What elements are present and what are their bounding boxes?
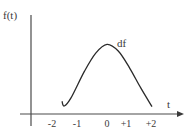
x-axis-arrow-icon <box>177 111 184 117</box>
x-tick-label: +1 <box>121 118 132 129</box>
function-curve <box>62 44 152 106</box>
x-tick-label: 0 <box>105 118 110 129</box>
x-tick-label: +2 <box>146 118 157 129</box>
function-diagram: f(t) t df -2-10+1+2 <box>0 0 190 136</box>
y-axis-label: f(t) <box>3 9 17 22</box>
x-tick-label: -1 <box>73 118 81 129</box>
x-axis-label: t <box>167 98 170 110</box>
curve-label: df <box>117 37 127 49</box>
x-tick-label: -2 <box>48 118 56 129</box>
x-tick-labels: -2-10+1+2 <box>48 118 156 129</box>
